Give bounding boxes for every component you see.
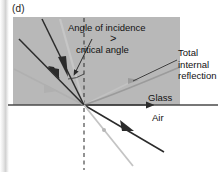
label-air: Air xyxy=(152,112,164,123)
label-greater-than: > xyxy=(110,33,116,44)
label-glass: Glass xyxy=(148,92,172,103)
transmitted-ray-light-marker xyxy=(102,128,106,132)
transmitted-ray-dark-arrowhead xyxy=(120,120,134,131)
transmitted-ray-light xyxy=(84,105,133,166)
incident-ray-1-arrowhead xyxy=(58,56,68,77)
figure-panel: (d) xyxy=(0,0,218,172)
label-angle-of-incidence: Angle of incidence xyxy=(68,22,146,33)
label-critical-angle: critical angle xyxy=(76,44,129,55)
label-total-internal-reflection: Total internal reflection xyxy=(178,47,218,82)
incident-ray-light-arrowhead xyxy=(44,84,58,93)
